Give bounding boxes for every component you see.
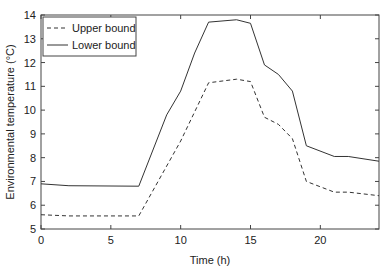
y-tick-label: 6 — [30, 199, 36, 211]
y-tick-label: 5 — [30, 223, 36, 235]
y-tick-label: 11 — [25, 80, 36, 92]
y-tick-label: 10 — [24, 104, 36, 116]
y-axis-label: Environmental temperature (°C) — [4, 44, 16, 199]
chart-container: 05101520567891011121314Time (h)Environme… — [0, 0, 387, 273]
y-tick-label: 8 — [30, 152, 36, 164]
legend-label: Upper bound — [72, 22, 136, 34]
series-upper-bound — [41, 79, 379, 216]
x-tick-label: 5 — [108, 234, 114, 246]
x-tick-label: 20 — [314, 234, 326, 246]
line-chart: 05101520567891011121314Time (h)Environme… — [0, 0, 387, 273]
x-tick-label: 10 — [175, 234, 187, 246]
x-tick-label: 0 — [38, 234, 44, 246]
y-tick-label: 12 — [24, 57, 36, 69]
x-tick-label: 15 — [244, 234, 256, 246]
x-axis-label: Time (h) — [190, 254, 231, 266]
y-tick-label: 9 — [30, 128, 36, 140]
y-tick-label: 7 — [30, 175, 36, 187]
y-tick-label: 14 — [24, 9, 36, 21]
legend-label: Lower bound — [72, 39, 136, 51]
y-tick-label: 13 — [24, 33, 36, 45]
